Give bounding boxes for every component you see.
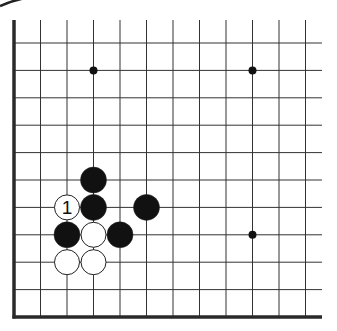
black-stone (81, 194, 107, 220)
white-stone: 1 (55, 195, 80, 220)
white-stone (81, 222, 106, 247)
black-stone (54, 222, 80, 248)
black-stone-circle (81, 167, 107, 193)
move-number-label: 1 (62, 197, 73, 218)
star-point-icon (249, 66, 257, 74)
black-stone-circle (54, 222, 80, 248)
white-stone-circle (81, 222, 106, 247)
black-stone-circle (107, 222, 133, 248)
white-stone-circle (81, 250, 106, 275)
black-stone-circle (81, 194, 107, 220)
black-stone (81, 167, 107, 193)
header-circle-arc (0, 0, 26, 6)
stones: 1 (54, 167, 160, 275)
black-stone-circle (134, 194, 160, 220)
black-stone (134, 194, 160, 220)
star-point-icon (90, 66, 98, 74)
white-stone (81, 250, 106, 275)
star-point-icon (249, 231, 257, 239)
black-stone (107, 222, 133, 248)
board-edges (13, 20, 323, 319)
white-stone-circle (55, 250, 80, 275)
white-stone (55, 250, 80, 275)
go-board-diagram: 1 (0, 0, 337, 331)
